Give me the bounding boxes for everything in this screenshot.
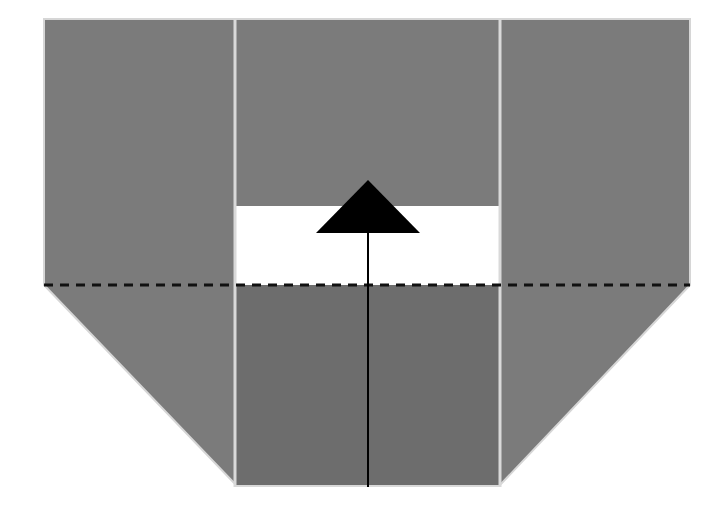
origami-diagram bbox=[0, 0, 726, 518]
